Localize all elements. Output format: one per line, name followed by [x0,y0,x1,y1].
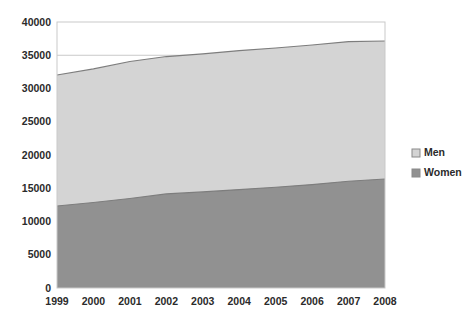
y-tick-label-10000: 10000 [22,215,51,227]
legend-swatch-women [412,169,420,177]
legend-label-women: Women [424,166,462,178]
x-tick-label-2002: 2002 [155,295,179,307]
x-tick-label-2004: 2004 [228,295,252,307]
y-tick-label-30000: 30000 [22,82,51,94]
x-tick-label-2001: 2001 [118,295,142,307]
y-tick-label-5000: 5000 [28,248,52,260]
y-tick-label-35000: 35000 [22,49,51,61]
y-tick-label-25000: 25000 [22,115,51,127]
x-tick-label-2008: 2008 [373,295,397,307]
y-tick-label-0: 0 [45,282,51,294]
series-areas [57,41,385,288]
x-tick-label-2007: 2007 [337,295,361,307]
y-tick-label-20000: 20000 [22,149,51,161]
x-tick-label-2000: 2000 [82,295,106,307]
y-tick-label-40000: 40000 [22,16,51,28]
x-tick-label-2005: 2005 [264,295,288,307]
chart-canvas: 0500010000150002000025000300003500040000… [0,0,475,324]
legend-label-men: Men [424,146,445,158]
x-tick-label-2003: 2003 [191,295,215,307]
stacked-area-chart: 0500010000150002000025000300003500040000… [0,0,475,324]
x-tick-label-2006: 2006 [300,295,324,307]
legend-swatch-men [412,149,420,157]
x-tick-label-1999: 1999 [45,295,69,307]
y-tick-label-15000: 15000 [22,182,51,194]
